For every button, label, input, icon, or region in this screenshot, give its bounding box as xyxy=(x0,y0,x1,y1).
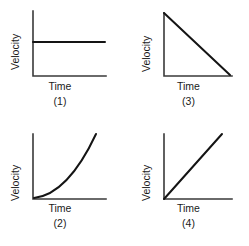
graph-panel-4: Velocity Time (4) xyxy=(125,123,249,246)
graph-panel-1: Velocity Time (1) xyxy=(0,0,124,123)
panel-number-1: (1) xyxy=(24,96,96,107)
x-axis-label-4: Time xyxy=(153,203,225,214)
axes-4 xyxy=(164,134,232,199)
panel-number-2: (2) xyxy=(24,218,96,229)
axes-1 xyxy=(33,11,106,76)
panel-number-3: (3) xyxy=(153,96,225,107)
data-curve-3 xyxy=(164,13,230,75)
axes-2 xyxy=(33,134,106,199)
velocity-time-graph-figure: Velocity Time (1) Velocity Time (3) Velo… xyxy=(0,0,249,246)
y-axis-label-4: Velocity xyxy=(141,145,152,201)
panel-number-4: (4) xyxy=(153,218,225,229)
graph-panel-3: Velocity Time (3) xyxy=(125,0,249,123)
x-axis-label-2: Time xyxy=(24,203,96,214)
y-axis-label-3: Velocity xyxy=(141,16,152,72)
y-axis-label-2: Velocity xyxy=(10,145,21,201)
x-axis-label-1: Time xyxy=(24,81,96,92)
graph-panel-2: Velocity Time (2) xyxy=(0,123,124,246)
data-curve-2 xyxy=(34,134,96,198)
x-axis-label-3: Time xyxy=(153,81,225,92)
y-axis-label-1: Velocity xyxy=(10,14,21,70)
data-curve-4 xyxy=(164,134,222,199)
